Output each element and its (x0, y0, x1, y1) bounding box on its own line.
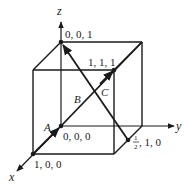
point-z-unit (59, 40, 64, 45)
direction-label-C: C (101, 86, 109, 98)
x-axis-label: x (8, 170, 15, 184)
label-half-one-zero: 1 2 , 1, 0 (133, 134, 162, 151)
label-one-one-one: 1, 1, 1 (88, 56, 116, 68)
direction-B-arrowhead (100, 71, 113, 84)
fraction-numerator: 1 (134, 134, 138, 142)
fraction-denominator: 2 (134, 143, 138, 151)
z-axis-label: z (56, 4, 62, 18)
point-origin (59, 124, 64, 129)
direction-label-B: B (74, 93, 81, 105)
label-z-unit: 0, 0, 1 (65, 28, 93, 40)
cube-edge-top-left (33, 42, 61, 70)
point-one-one-one (112, 68, 117, 73)
label-origin: 0, 0, 0 (63, 130, 91, 142)
y-axis-label: y (175, 119, 182, 133)
unit-cube-diagram: z y x 0, 0, 1 1, 1, 1 0, 0, 0 1, 0, 0 1 … (0, 0, 184, 185)
label-half-rest: , 1, 0 (139, 136, 162, 148)
point-half-one-zero (126, 138, 131, 143)
axes (17, 22, 174, 171)
direction-label-A: A (43, 121, 51, 133)
label-x-unit: 1, 0, 0 (34, 158, 62, 170)
direction-B (61, 42, 142, 126)
point-x-unit (31, 152, 36, 157)
